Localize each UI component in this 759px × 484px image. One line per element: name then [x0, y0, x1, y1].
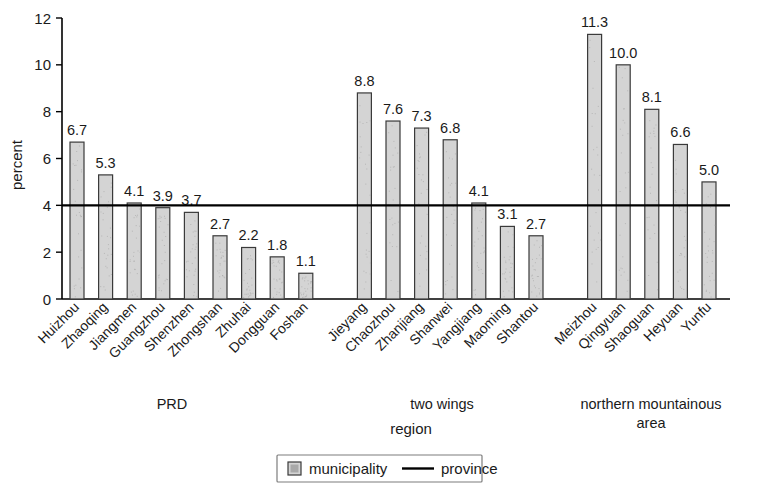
bar-value-label: 2.7	[210, 216, 230, 232]
bar-value-label: 4.1	[124, 183, 144, 199]
bar	[386, 121, 400, 299]
bar-value-label: 1.1	[296, 253, 316, 269]
bar	[99, 175, 113, 299]
y-tick-label: 6	[43, 150, 51, 167]
y-tick-label: 12	[34, 10, 51, 27]
bar	[184, 212, 198, 299]
bar-value-label: 8.8	[354, 73, 374, 89]
bar-value-label: 10.0	[609, 45, 637, 61]
group-label-prd: PRD	[157, 396, 188, 412]
bar	[529, 236, 543, 299]
bar-value-label: 5.3	[96, 155, 116, 171]
bar-value-label: 6.6	[670, 124, 690, 140]
chart-legend: municipality province	[277, 455, 498, 482]
x-category-label: Yunfu	[677, 299, 714, 336]
y-axis: 024681012	[34, 10, 62, 308]
bar	[443, 140, 457, 299]
bar-value-label: 6.8	[440, 120, 460, 136]
bar	[702, 182, 716, 299]
bar	[357, 93, 371, 299]
bar-value-label: 11.3	[581, 14, 608, 30]
category-labels-layer: HuizhouZhaoqingJiangmenGuangzhouShenzhen…	[34, 299, 714, 362]
bar-value-label: 7.3	[412, 108, 432, 124]
x-axis-title: region	[390, 420, 432, 437]
bar-chart-figure: percent 024681012 6.75.34.13.93.72.72.21…	[0, 0, 759, 484]
bar	[213, 236, 227, 299]
bar-value-label: 1.8	[267, 237, 287, 253]
bar	[415, 128, 429, 299]
group-label-two-wings: two wings	[410, 396, 474, 412]
bar	[70, 142, 84, 299]
bar-value-label: 4.1	[469, 183, 489, 199]
bar	[242, 247, 256, 299]
bar-value-label: 2.7	[526, 216, 546, 232]
y-tick-label: 8	[43, 103, 51, 120]
group-label-northern-area: area	[636, 415, 666, 431]
y-axis-title: percent	[8, 139, 25, 190]
y-tick-label: 2	[43, 244, 51, 261]
y-tick-label: 4	[43, 197, 51, 214]
chart-canvas: percent 024681012 6.75.34.13.93.72.72.21…	[0, 0, 759, 484]
bar-value-label: 2.2	[239, 227, 259, 243]
bar-value-label: 6.7	[67, 122, 87, 138]
bar	[588, 34, 602, 299]
bar	[616, 65, 630, 299]
bar	[673, 144, 687, 299]
bars-layer	[70, 34, 716, 299]
bar	[472, 203, 486, 299]
y-tick-label: 10	[34, 56, 51, 73]
bar-value-label: 7.6	[383, 101, 403, 117]
bar-value-label: 3.1	[497, 206, 517, 222]
legend-swatch-municipality-inner	[291, 465, 299, 473]
group-label-northern-mountainous: northern mountainous	[580, 396, 721, 412]
bar	[156, 208, 170, 299]
bar-value-label: 3.9	[153, 188, 173, 204]
y-tick-label: 0	[43, 291, 51, 308]
legend-label-municipality: municipality	[309, 460, 388, 477]
bar-value-label: 8.1	[642, 89, 662, 105]
legend-label-province: province	[441, 460, 498, 477]
bar-value-label: 5.0	[699, 162, 719, 178]
